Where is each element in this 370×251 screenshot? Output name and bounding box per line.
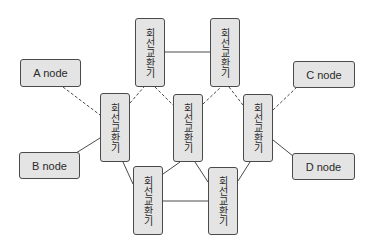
switch-top-left: 회선교환기 bbox=[135, 18, 165, 87]
switch-top-left-label: 회선교환기 bbox=[144, 28, 157, 78]
node-b: B node bbox=[19, 152, 80, 179]
edge-s5-d bbox=[273, 140, 293, 156]
switch-middle-center-label: 회선교환기 bbox=[182, 103, 195, 153]
node-c: C node bbox=[293, 61, 355, 88]
edge-s3-s6 bbox=[123, 162, 133, 184]
switch-top-right: 회선교환기 bbox=[210, 18, 240, 87]
node-a-label: A node bbox=[33, 67, 67, 79]
edge-s4-s2 bbox=[203, 87, 221, 104]
edge-s5-c bbox=[273, 87, 297, 110]
circuit-switching-diagram: A node B node C node D node 회선교환기 회선교환기 … bbox=[0, 0, 370, 251]
edge-s5-s7 bbox=[238, 162, 250, 181]
switch-middle-right: 회선교환기 bbox=[243, 94, 273, 162]
edge-s4-s6 bbox=[163, 162, 180, 174]
edge-s2-s5 bbox=[229, 87, 243, 105]
node-a: A node bbox=[20, 59, 81, 87]
switch-top-right-label: 회선교환기 bbox=[219, 28, 232, 78]
edge-s1-s4 bbox=[155, 87, 173, 105]
switch-bottom-right-label: 회선교환기 bbox=[217, 176, 230, 226]
edge-s4-s7 bbox=[195, 162, 208, 182]
switch-middle-left: 회선교환기 bbox=[100, 93, 130, 162]
edge-b-s3 bbox=[76, 138, 100, 153]
node-c-label: C node bbox=[306, 69, 341, 81]
switch-middle-left-label: 회선교환기 bbox=[109, 103, 122, 153]
node-b-label: B node bbox=[32, 160, 67, 172]
switch-middle-center: 회선교환기 bbox=[173, 94, 203, 162]
switch-bottom-left-label: 회선교환기 bbox=[142, 176, 155, 226]
node-d: D node bbox=[292, 153, 355, 180]
edge-s3-s1 bbox=[130, 87, 144, 103]
switch-middle-right-label: 회선교환기 bbox=[252, 103, 265, 153]
switch-bottom-right: 회선교환기 bbox=[208, 167, 238, 235]
node-d-label: D node bbox=[306, 161, 341, 173]
edge-a-s3 bbox=[63, 87, 100, 115]
switch-bottom-left: 회선교환기 bbox=[133, 166, 163, 235]
